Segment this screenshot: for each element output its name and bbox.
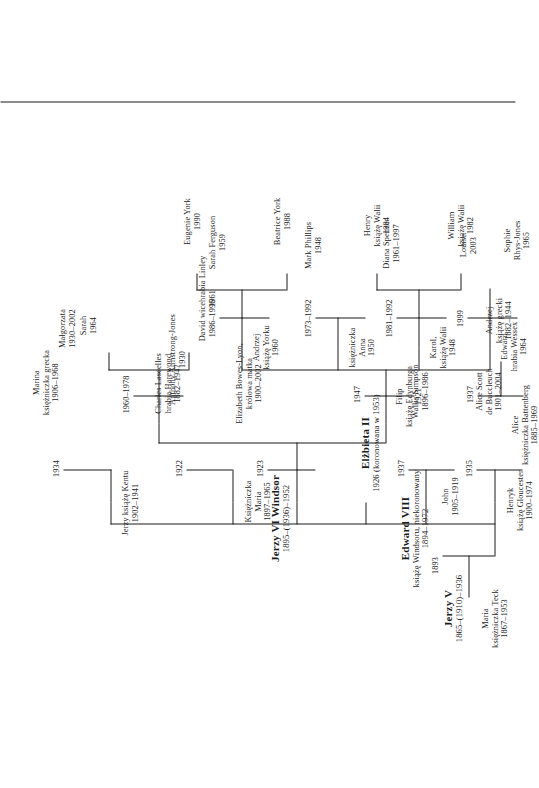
person-name: Charles Lascelles [153, 319, 163, 447]
marriage-year-jerzyv-maria: 1893 [430, 540, 439, 590]
person-dates: 1926 (koronowana w 1953) [371, 380, 381, 505]
connector [110, 469, 111, 502]
person-title: księżniczka Teck [490, 558, 500, 678]
person-name: Jerzy VI Windsor [268, 453, 281, 583]
person-title: Rhys-Jones [512, 197, 522, 283]
person-edward-viii: Edward VIII książę Windsoru, niekoronowa… [398, 448, 430, 608]
connector [188, 352, 189, 370]
person-name: księżniczka [347, 299, 357, 395]
person-name: Louise [458, 207, 468, 283]
connector [296, 442, 297, 470]
person-andrzej-yorku: Andrzej książę Yorku 1960 [251, 299, 280, 395]
connector [494, 502, 495, 524]
person-dates: 1959 [217, 189, 227, 295]
person-ksiezniczka-anna: księżniczka Anna 1950 [347, 299, 376, 395]
person-malgorzata: Małgorzata 1930–2002 [57, 273, 76, 383]
connector [337, 317, 338, 348]
person-name: Jerzy V [441, 553, 454, 663]
person-name: Sarah [78, 290, 88, 360]
person-dates: 1961–1997 [391, 191, 401, 295]
person-ksiezniczka-maria: Księżniczka Maria 1897–1965 [243, 446, 272, 556]
person-henry-walii: Henry książę Walii 1984 [362, 179, 391, 271]
person-name: Elizabeth Bowes-Lyon, [234, 313, 244, 453]
marriage-bar-maria-lascelles [186, 469, 232, 470]
person-name: Karol, [428, 298, 438, 396]
person-dates: 1948 [447, 298, 457, 396]
person-jerzy-vi: Jerzy VI Windsor 1895–(1936)–1952 [268, 453, 290, 583]
person-dates: 1921 [413, 340, 423, 452]
person-name: Sophie [502, 197, 512, 283]
marriage-year-henryk-alice: 1935 [464, 443, 473, 493]
marriage-year-maria-lascelles: 1922 [174, 443, 183, 493]
person-dates: 1964 [88, 290, 98, 360]
person-title: książę Walii [438, 298, 448, 396]
connector [418, 289, 419, 318]
connector [108, 352, 109, 370]
person-dates: 1885–1969 [529, 357, 539, 492]
person-name: Edward VIII [398, 448, 411, 608]
person-anthony-armstrong-jones: Anthony Armstrong-Jones 1930 [167, 284, 186, 434]
person-maria-teck: Maria księżniczka Teck 1867–1953 [480, 558, 509, 678]
connector [468, 555, 469, 597]
connector [494, 469, 495, 502]
person-name: Księżniczka [243, 446, 253, 556]
marriage-year-jerzykent-marina: 1934 [51, 443, 60, 493]
person-dates: 1950 [366, 299, 376, 395]
person-title: książę Walii [372, 179, 382, 271]
person-dates: 1964 [518, 297, 528, 395]
person-karol-walii: Karol, książę Walii 1948 [428, 298, 457, 396]
person-name: Mark Phillips [303, 195, 313, 295]
marriage-year-alice-andrzej: 1937 [465, 369, 474, 419]
person-elzbieta-ii: Elżbieta II 1926 (koronowana w 1953) [358, 380, 380, 505]
connector [337, 348, 338, 370]
person-name: Małgorzata [57, 273, 67, 383]
connector [385, 395, 386, 423]
person-name: Sarah Ferguson [207, 189, 217, 295]
sibling-spine-jerzyv [110, 523, 495, 524]
person-dates: 1930 [177, 284, 187, 434]
person-name: Henry [362, 179, 372, 271]
sibling-spine-jerzyvi [158, 442, 385, 443]
person-filip-edynburg: Filip książę Edynburga 1921 [394, 340, 423, 452]
connector [286, 273, 287, 290]
person-sophie-rhys-jones: Sophie Rhys-Jones 1965 [502, 197, 531, 283]
person-beatrice-york: Beatrice York 1988 [272, 171, 291, 271]
person-name: Anthony Armstrong-Jones [167, 284, 177, 434]
person-dates: 1960 [270, 299, 280, 395]
person-edward-wessex: Edward hrabia Wessex 1964 [499, 297, 528, 395]
person-jerzy-kent: Jerzy książę Kentu 1902–1941 [120, 440, 139, 565]
person-name: Andrzej [484, 266, 494, 374]
person-name: Alice Scott [474, 335, 484, 447]
person-dates: 1895–(1936)–1952 [281, 453, 291, 583]
person-title: książę Edynburga [404, 340, 414, 452]
person-title: księżniczka grecka [41, 317, 51, 447]
person-name: Beatrice York [272, 171, 282, 271]
connector [110, 502, 111, 524]
person-name: Maria [480, 558, 490, 678]
person-dates: 1988 [282, 171, 292, 271]
person-name: Filip [394, 340, 404, 452]
person-dates: 2003 [468, 207, 478, 283]
connector [232, 502, 233, 524]
person-mark-phillips: Mark Phillips 1948 [303, 195, 322, 295]
person-name: Eugenie York [182, 171, 192, 271]
connector [385, 369, 386, 396]
connector [376, 273, 377, 290]
person-dates: 1867–1953 [499, 558, 509, 678]
person-name: Edward [499, 297, 509, 395]
marriage-bar-jerzykent-marina [63, 469, 111, 470]
person-name: John [440, 456, 450, 536]
person-name: Elżbieta II [358, 380, 371, 505]
person-name: Jerzy książę Kentu [120, 440, 130, 565]
person-dates: 1948 [313, 195, 323, 295]
person-sarah-ferguson: Sarah Ferguson 1959 [207, 189, 226, 295]
person-marina-grecka: Marina księżniczka grecka 1906–1968 [31, 317, 60, 447]
person-dates: 1990 [192, 171, 202, 271]
connector [494, 524, 495, 556]
person-name: Marina [31, 317, 41, 447]
connector [385, 423, 386, 443]
person-name: William [446, 179, 456, 271]
person-jerzy-v: Jerzy V 1865–(1910)–1936 [441, 553, 463, 663]
